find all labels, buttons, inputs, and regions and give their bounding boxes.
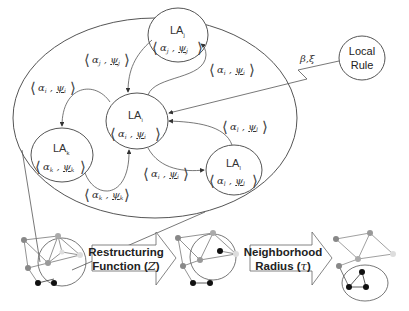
cellular-learning-automata-diagram: LAj ⟨ αj , ψj ⟩ LAi ⟨ αi , ψi ⟩ LAk ⟨ αk… [0, 0, 409, 311]
svg-text:⟩: ⟩ [124, 186, 130, 204]
svg-text:Radius (τ): Radius (τ) [255, 259, 311, 273]
svg-text:⟨: ⟨ [152, 39, 158, 57]
edge-label-k-i: ⟨ αk , ψk ⟩ [84, 186, 130, 204]
svg-text:⟨: ⟨ [209, 61, 215, 79]
svg-text:⟩: ⟩ [249, 61, 255, 79]
svg-text:Restructuring: Restructuring [88, 246, 163, 258]
edge-j-to-i [128, 40, 152, 92]
svg-text:⟩: ⟩ [183, 165, 189, 183]
svg-text:αi , ψi: αi , ψi [217, 64, 245, 76]
graph-after-restructuring [175, 230, 239, 286]
svg-text:⟨: ⟨ [84, 186, 90, 204]
svg-text:⟨: ⟨ [222, 118, 228, 136]
svg-text:Neighborhood: Neighborhood [244, 246, 323, 258]
edge-label-i-l: ⟨ αi , ψi ⟩ [143, 165, 189, 183]
local-rule-input-label: β,ξ [299, 53, 315, 64]
local-rule-node: Local Rule [339, 36, 385, 80]
svg-text:⟩: ⟩ [252, 172, 258, 190]
svg-text:⟨: ⟨ [143, 165, 149, 183]
svg-text:⟩: ⟩ [197, 39, 203, 57]
svg-text:⟩: ⟩ [124, 51, 130, 69]
svg-text:Function (Z): Function (Z) [92, 259, 160, 273]
svg-text:LAl: LAl [226, 157, 241, 171]
svg-text:Rule: Rule [351, 59, 374, 71]
svg-text:αl , ψl: αl , ψl [217, 175, 245, 187]
automaton-k: LAk ⟨ αk , ψk ⟩ [31, 128, 93, 182]
svg-text:LAj: LAj [170, 24, 185, 38]
svg-text:αk , ψk: αk , ψk [92, 189, 124, 201]
svg-text:⟩: ⟩ [155, 125, 161, 143]
edge-label-i-k: ⟨ αi , ψi ⟩ [30, 79, 76, 97]
svg-text:⟨: ⟨ [35, 158, 41, 176]
svg-text:⟨: ⟨ [84, 51, 90, 69]
automaton-i: LAi ⟨ αi , ψi ⟩ [106, 93, 168, 149]
svg-text:αi , ψi: αi , ψi [118, 128, 146, 140]
svg-text:αj , ψj: αj , ψj [92, 54, 120, 67]
svg-text:αi , ψi: αi , ψi [151, 168, 179, 180]
edge-label-j-i: ⟨ αj , ψj ⟩ [84, 51, 130, 69]
svg-text:Local: Local [349, 45, 375, 57]
graph-before [21, 233, 86, 286]
svg-text:⟩: ⟩ [262, 118, 268, 136]
edge-label-i-j: ⟨ αi , ψi ⟩ [209, 61, 255, 79]
edge-label-l-i: ⟨ αl , ψl ⟩ [222, 118, 268, 136]
svg-text:⟨: ⟨ [209, 172, 215, 190]
svg-text:αk , ψk: αk , ψk [43, 161, 75, 173]
neighborhood-radius-arrow: Neighborhood Radius (τ) [244, 232, 332, 285]
graph-after-radius [333, 230, 396, 301]
restructuring-function-arrow: Restructuring Function (Z) [88, 232, 176, 285]
automaton-j: LAj ⟨ αj , ψj ⟩ [148, 8, 208, 62]
svg-text:αl , ψl: αl , ψl [230, 121, 258, 133]
automaton-l: LAl ⟨ αl , ψl ⟩ [206, 145, 262, 195]
svg-text:⟨: ⟨ [30, 79, 36, 97]
svg-text:LAi: LAi [128, 109, 143, 123]
svg-text:⟨: ⟨ [110, 125, 116, 143]
svg-text:⟩: ⟩ [70, 79, 76, 97]
svg-text:αi , ψi: αi , ψi [38, 82, 66, 94]
